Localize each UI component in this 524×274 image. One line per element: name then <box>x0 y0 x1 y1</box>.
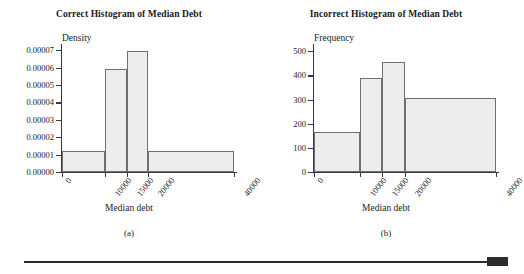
x-tick-mark <box>496 172 497 177</box>
x-tick-mark <box>127 172 128 177</box>
x-tick-mark <box>405 172 406 177</box>
y-tick-mark <box>308 100 314 101</box>
y-tick-label: 200 <box>293 119 306 128</box>
y-tick-mark <box>56 120 62 121</box>
x-tick-label: 0 <box>316 176 325 185</box>
y-tick-mark <box>56 155 62 156</box>
y-tick-label: 0 <box>302 168 306 177</box>
x-tick-mark <box>234 172 235 177</box>
y-tick-label: 0.00006 <box>26 63 54 72</box>
footer-rule <box>24 261 489 263</box>
y-tick-mark <box>56 50 62 51</box>
y-axis-label-a: Density <box>62 33 92 43</box>
chart-title-b: Incorrect Histogram of Median Debt <box>257 9 515 19</box>
histogram-bar <box>405 98 496 172</box>
y-tick-label: 0.00005 <box>26 81 54 90</box>
histogram-bar <box>382 62 405 172</box>
y-tick-mark <box>308 75 314 76</box>
histogram-bar <box>360 78 383 172</box>
x-tick-mark <box>314 172 315 177</box>
footer-page-tab <box>487 257 508 266</box>
panel-caption-a: (a) <box>0 228 258 238</box>
x-tick-mark <box>148 172 149 177</box>
x-tick-label: 15000 <box>135 176 155 198</box>
panel-b-incorrect-histogram: Incorrect Histogram of Median Debt Frequ… <box>257 0 515 250</box>
histogram-bar <box>148 151 234 172</box>
chart-title-a: Correct Histogram of Median Debt <box>0 9 258 19</box>
histogram-bar <box>314 132 360 172</box>
y-tick-label: 300 <box>293 95 306 104</box>
panel-a-correct-histogram: Correct Histogram of Median Debt Density… <box>0 0 258 250</box>
histogram-bar <box>105 69 127 172</box>
histogram-bar <box>62 151 105 172</box>
x-tick-mark <box>62 172 63 177</box>
x-axis-label-a: Median debt <box>0 203 258 213</box>
y-tick-mark <box>56 102 62 103</box>
plot-area-a: 0.000000.000010.000020.000030.000040.000… <box>62 44 234 172</box>
x-tick-label: 0 <box>64 176 73 185</box>
x-tick-label: 20000 <box>156 176 176 198</box>
y-tick-label: 500 <box>293 47 306 56</box>
x-tick-label: 10000 <box>113 176 133 198</box>
y-tick-mark <box>56 68 62 69</box>
y-tick-label: 0.00002 <box>26 133 54 142</box>
x-tick-label: 20000 <box>413 176 433 198</box>
x-tick-label: 40000 <box>504 176 524 198</box>
panel-caption-b: (b) <box>257 228 515 238</box>
y-tick-mark <box>56 137 62 138</box>
x-axis-label-b: Median debt <box>257 203 515 213</box>
x-tick-label: 15000 <box>390 176 410 198</box>
y-tick-mark <box>308 124 314 125</box>
plot-area-b: 0100200300400500 010000150002000040000 <box>314 44 496 172</box>
y-tick-mark <box>56 85 62 86</box>
y-tick-label: 0.00003 <box>26 116 54 125</box>
y-tick-mark <box>308 148 314 149</box>
y-tick-label: 0.00000 <box>26 168 54 177</box>
x-tick-label: 10000 <box>368 176 388 198</box>
x-tick-mark <box>105 172 106 177</box>
histogram-bar <box>127 51 149 172</box>
x-tick-mark <box>382 172 383 177</box>
y-tick-label: 0.00007 <box>26 46 54 55</box>
y-tick-label: 0.00004 <box>26 98 54 107</box>
y-tick-label: 100 <box>293 144 306 153</box>
y-tick-label: 400 <box>293 71 306 80</box>
y-tick-label: 0.00001 <box>26 150 54 159</box>
y-axis-label-b: Frequency <box>314 33 354 43</box>
y-tick-mark <box>308 51 314 52</box>
x-tick-mark <box>360 172 361 177</box>
